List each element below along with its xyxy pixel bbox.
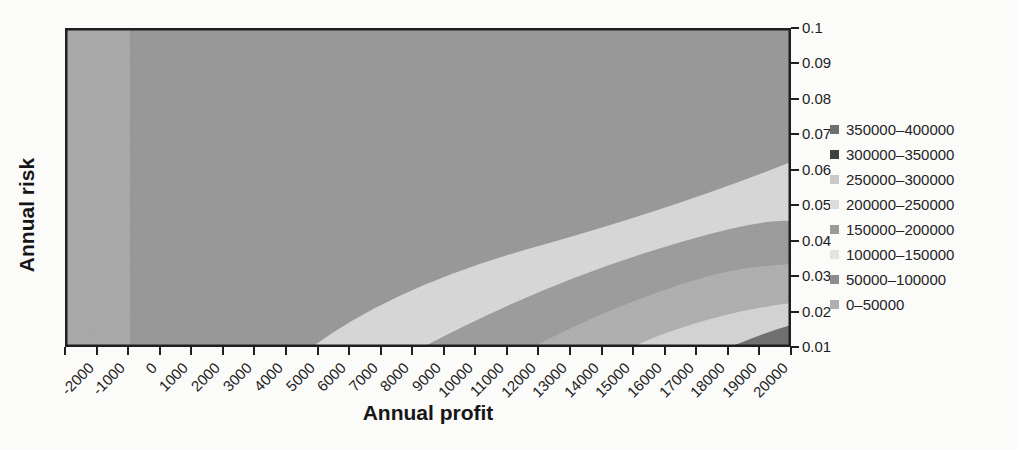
x-tick [159,347,161,355]
x-tick [443,347,445,355]
x-axis-title: Annual profit [363,401,494,425]
legend-item: 0–50000 [830,296,954,313]
x-tick [632,347,634,355]
x-tick-label: -1000 [89,359,128,398]
y-tick [791,62,799,64]
legend-label: 300000–350000 [846,146,954,163]
x-tick [348,347,350,355]
x-tick-label: 13000 [529,359,571,401]
legend-label: 250000–300000 [846,171,954,188]
x-tick-label: 0 [142,359,160,377]
legend-item: 300000–350000 [830,146,954,163]
x-tick-label: -2000 [58,359,97,398]
x-tick [96,347,98,355]
legend-item: 100000–150000 [830,246,954,263]
y-tick-label: 0.03 [802,267,831,285]
x-tick-label: 15000 [592,359,634,401]
legend-item: 350000–400000 [830,121,954,138]
x-tick [569,347,571,355]
x-tick-label: 5000 [282,359,318,395]
x-tick [506,347,508,355]
x-tick-label: 20000 [750,359,792,401]
x-tick-label: 19000 [718,359,760,401]
y-tick [791,204,799,206]
x-tick [253,347,255,355]
legend-swatch [830,300,839,309]
y-tick-label: 0.02 [802,303,831,321]
y-tick [791,98,799,100]
x-tick-label: 2000 [187,359,223,395]
x-tick-label: 18000 [687,359,729,401]
y-tick [791,27,799,29]
x-tick-label: 4000 [251,359,287,395]
x-tick [601,347,603,355]
y-tick [791,240,799,242]
legend-item: 150000–200000 [830,221,954,238]
legend-label: 150000–200000 [846,221,954,238]
legend-item: 50000–100000 [830,271,954,288]
x-tick-label: 10000 [434,359,476,401]
scan-noise-overlay [65,28,791,347]
y-tick-label: 0.07 [802,125,831,143]
y-tick-label: 0.08 [802,90,831,108]
x-tick-label: 11000 [466,359,507,400]
y-tick-label: 0.09 [802,54,831,72]
x-tick [537,347,539,355]
x-tick-label: 16000 [623,359,665,401]
contour-plot [65,28,791,347]
x-tick [411,347,413,355]
x-tick [127,347,129,355]
legend-item: 200000–250000 [830,196,954,213]
y-tick [791,133,799,135]
legend-label: 50000–100000 [846,271,946,288]
y-tick [791,346,799,348]
legend-label: 100000–150000 [846,246,954,263]
y-tick [791,169,799,171]
x-tick-label: 14000 [560,359,602,401]
legend-swatch [830,275,839,284]
y-tick-label: 0.05 [802,196,831,214]
x-tick-label: 12000 [497,359,539,401]
plot-area: 0.10.090.080.070.060.050.040.030.020.01 … [65,28,791,347]
y-tick-label: 0.06 [802,161,831,179]
x-tick [64,347,66,355]
legend-swatch [830,250,839,259]
x-tick [317,347,319,355]
x-tick [190,347,192,355]
contour-chart-figure: 0.10.090.080.070.060.050.040.030.020.01 … [0,0,1018,450]
x-tick-label: 3000 [219,359,255,395]
legend-swatch [830,125,839,134]
x-tick [758,347,760,355]
legend-swatch [830,175,839,184]
x-tick [474,347,476,355]
x-tick-label: 17000 [655,359,697,401]
legend-swatch [830,150,839,159]
x-tick-label: 6000 [314,359,350,395]
y-tick-label: 0.1 [802,19,823,37]
y-tick-label: 0.01 [802,338,831,356]
x-tick [380,347,382,355]
y-tick-label: 0.04 [802,232,831,250]
legend-label: 200000–250000 [846,196,954,213]
x-tick [222,347,224,355]
y-tick [791,311,799,313]
x-tick-label: 8000 [377,359,413,395]
x-tick [664,347,666,355]
y-axis-title: Annual risk [15,158,39,272]
legend: 350000–400000300000–350000250000–3000002… [830,121,954,321]
legend-swatch [830,200,839,209]
x-tick [790,347,792,355]
legend-label: 0–50000 [846,296,904,313]
x-tick [727,347,729,355]
x-tick-label: 7000 [345,359,381,395]
legend-swatch [830,225,839,234]
x-tick [285,347,287,355]
x-tick-label: 1000 [156,359,192,395]
x-tick [695,347,697,355]
legend-label: 350000–400000 [846,121,954,138]
y-tick [791,275,799,277]
legend-item: 250000–300000 [830,171,954,188]
